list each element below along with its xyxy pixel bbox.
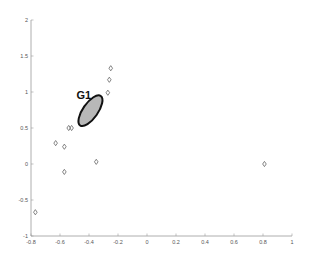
diamond-marker xyxy=(34,210,38,215)
x-tick-label: 0 xyxy=(145,239,148,245)
x-axis-ticks: -0.8-0.6-0.4-0.200.20.40.60.81 xyxy=(26,234,293,246)
data-points xyxy=(34,66,267,215)
y-tick-label: 1 xyxy=(25,89,28,95)
diamond-marker xyxy=(63,169,67,174)
y-tick-label: -0.5 xyxy=(19,197,28,203)
x-tick-label: 0.8 xyxy=(259,239,267,245)
diamond-marker xyxy=(108,77,112,82)
diamond-marker xyxy=(106,90,110,95)
diamond-marker xyxy=(94,159,98,164)
diamond-marker xyxy=(263,161,267,166)
x-tick-label: 0.4 xyxy=(201,239,209,245)
diamond-marker xyxy=(54,141,58,146)
diamond-marker xyxy=(63,144,67,149)
y-tick-label: 0 xyxy=(25,161,28,167)
y-tick-label: 1.5 xyxy=(20,53,28,59)
x-tick-label: 0.2 xyxy=(172,239,180,245)
x-tick-label: -0.4 xyxy=(84,239,93,245)
scatter-chart: -0.8-0.6-0.4-0.200.20.40.60.81 -1-0.500.… xyxy=(0,0,310,256)
y-tick-label: 0.5 xyxy=(20,125,28,131)
y-tick-label: -1 xyxy=(23,233,28,239)
x-tick-label: -0.8 xyxy=(26,239,35,245)
diamond-marker xyxy=(109,66,113,71)
x-tick-label: -0.2 xyxy=(113,239,122,245)
x-tick-label: -0.6 xyxy=(55,239,64,245)
g1-label: G1 xyxy=(76,89,91,101)
x-tick-label: 1 xyxy=(290,239,293,245)
x-tick-label: 0.6 xyxy=(230,239,238,245)
y-tick-label: 2 xyxy=(25,17,28,23)
cluster-annotation: G1 xyxy=(74,89,107,130)
